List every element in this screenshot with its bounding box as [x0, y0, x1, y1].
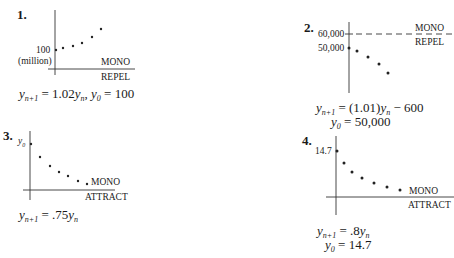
data-points	[55, 28, 102, 51]
behavior-label-top: MONO	[415, 24, 444, 34]
behavior-label-top: MONO	[91, 178, 120, 188]
behavior-label-bottom: REPEL	[101, 73, 130, 83]
y-tick-label: 14.7	[315, 147, 332, 157]
initial-condition: y0 = 50,000	[331, 115, 390, 131]
figure-3: 3. y0 MONO ATTRACT yn+1 = .75yn	[0, 128, 200, 218]
figure-4-plot	[280, 130, 454, 225]
y-unit-label: (million)	[18, 57, 52, 67]
behavior-label-top: MONO	[409, 187, 438, 197]
y-tick-label: y0	[18, 137, 25, 148]
figure-1-plot	[0, 0, 200, 90]
recurrence-equation: yn+1 = .75yn	[19, 208, 78, 224]
y-tick-label: 100	[36, 46, 50, 56]
figure-4: 4. 14.7 MONO ATTRACT yn+1 = .8yn y0 = 14…	[280, 130, 454, 258]
data-points	[336, 150, 402, 192]
behavior-label-bottom: ATTRACT	[85, 193, 128, 203]
behavior-label-bottom: ATTRACT	[408, 201, 451, 211]
y-tick-label-50000: 50,000	[318, 44, 344, 54]
data-points	[30, 143, 88, 185]
figure-1: 1. 100 (million) MONO REPEL yn+1 = 1.02y…	[0, 0, 200, 125]
figure-2: 2. 60,000 50,000 MONO REPEL yn+1 = (1.01…	[260, 0, 454, 130]
recurrence-equation: yn+1 = 1.02yn, y0 = 100	[19, 87, 134, 103]
data-points	[348, 47, 390, 75]
behavior-label-top: MONO	[101, 58, 130, 68]
initial-condition: y0 = 14.7	[325, 238, 371, 254]
figure-2-plot	[260, 0, 454, 100]
y-tick-label-60000: 60,000	[318, 30, 344, 40]
behavior-label-bottom: REPEL	[415, 38, 444, 48]
